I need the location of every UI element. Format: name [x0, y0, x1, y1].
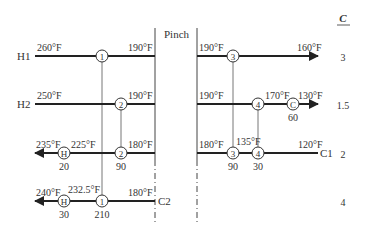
duty-label: 30	[253, 161, 263, 172]
stream-c1: 235°F 225°F 180°F 180°F 135°F 120°F C1 2	[35, 136, 346, 160]
exchanger-id: 4	[256, 149, 261, 159]
duty-label: 20	[59, 161, 69, 172]
temp-label: 225°F	[71, 139, 96, 150]
temp-label: 180°F	[128, 139, 153, 150]
temp-label: 130°F	[298, 90, 323, 101]
temp-label: 180°F	[199, 139, 224, 150]
exchanger-4-c1: 4 30	[252, 147, 264, 172]
pinch-label: Pinch	[164, 28, 190, 40]
stream-label-h2: H2	[17, 98, 30, 110]
temp-label: 135°F	[236, 136, 261, 147]
heat-exchanger-network-diagram: Pinch C H1 260°F 190°F 190°F 160°F 3 H2 …	[0, 0, 368, 244]
exchanger-id: 1	[100, 52, 105, 62]
temp-label: 180°F	[128, 187, 153, 198]
stream-h1: H1 260°F 190°F 190°F 160°F 3	[17, 42, 346, 63]
heater-id: H	[61, 197, 68, 207]
temp-label: 190°F	[199, 42, 224, 53]
duty-label: 90	[228, 161, 238, 172]
heater-id: H	[61, 149, 68, 159]
duty-label: 60	[288, 112, 298, 123]
exchanger-id: 4	[256, 100, 261, 110]
exchanger-1-c2: 1 210	[95, 195, 110, 220]
heater-c2: H 30	[58, 195, 70, 220]
stream-c2: 240°F 232.5°F 180°F C2 4	[35, 184, 346, 208]
c-value-h2: 1.5	[337, 100, 350, 111]
c-value-h1: 3	[341, 52, 346, 63]
temp-label: 232.5°F	[68, 184, 100, 195]
exchanger-id: 3	[231, 149, 236, 159]
exchanger-id: 2	[119, 149, 124, 159]
exchanger-3-c1: 3 90	[227, 147, 239, 172]
temp-label: 260°F	[37, 42, 62, 53]
c-value-c1: 2	[341, 149, 346, 160]
temp-label: 160°F	[297, 42, 322, 53]
c-header: C	[339, 12, 347, 24]
exchanger-4-h2: 4	[252, 98, 264, 110]
temp-label: 240°F	[36, 187, 61, 198]
heater-c1: H 20	[58, 147, 70, 172]
temp-label: 235°F	[36, 139, 61, 150]
exchanger-2-c1: 2 90	[115, 147, 127, 172]
temp-label: 250°F	[37, 90, 62, 101]
temp-label: 190°F	[128, 42, 153, 53]
exchanger-id: 3	[231, 52, 236, 62]
stream-label-c1: C1	[320, 147, 333, 159]
temp-label: 190°F	[199, 90, 224, 101]
temp-label: 190°F	[128, 90, 153, 101]
stream-label-h1: H1	[17, 50, 30, 62]
cooler-id: C	[290, 100, 296, 110]
temp-label: 170°F	[265, 90, 290, 101]
exchanger-1-h1: 1	[96, 50, 108, 62]
exchanger-id: 1	[100, 197, 105, 207]
c-value-c2: 4	[341, 197, 346, 208]
exchanger-id: 2	[119, 100, 124, 110]
duty-label: 30	[59, 209, 69, 220]
exchanger-2-h2: 2	[115, 98, 127, 110]
exchanger-3-h1: 3	[227, 50, 239, 62]
stream-h2: H2 250°F 190°F 190°F 170°F 130°F 1.5	[17, 90, 349, 111]
stream-label-c2: C2	[158, 195, 171, 207]
duty-label: 90	[116, 161, 126, 172]
cooler-h2: C 60	[287, 98, 299, 123]
duty-label: 210	[95, 209, 110, 220]
